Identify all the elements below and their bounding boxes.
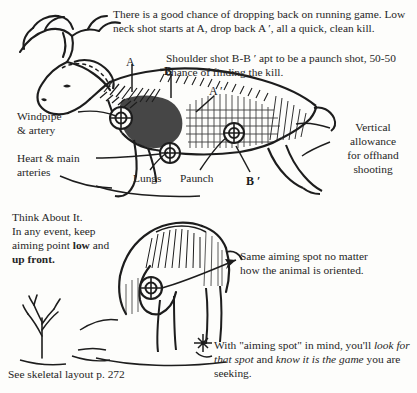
vertical-allowance-leader [296, 123, 330, 156]
paragraph-shoulder-shot: Shoulder shot B-B ′ apt to be a paunch s… [166, 52, 414, 80]
grazing-deer-legs [157, 286, 221, 352]
tail-icon [314, 107, 335, 131]
think-emphasis-up-front: up front. [12, 253, 55, 265]
label-heart-arteries: Heart & main arteries [17, 152, 80, 180]
shot-marker-b-prime: B ′ [246, 174, 260, 189]
label-vertical-allowance: Vertical allowance for offhand shooting [333, 121, 413, 177]
neck-topline [110, 70, 160, 82]
think-emphasis-low: low [73, 239, 90, 251]
with-text-c: and [254, 353, 276, 365]
paragraph-with-aiming-spot: With "aiming spot" in mind, you'll look … [214, 339, 414, 381]
illustration-page: There is a good chance of dropping back … [0, 0, 417, 393]
think-line-2: In any event, keep [12, 225, 96, 237]
label-paunch: Paunch [180, 172, 214, 186]
label-skeletal-reference: See skeletal layout p. 272 [8, 368, 125, 382]
think-line-3c: and [90, 239, 109, 251]
paragraph-think-about-it: Think About It.In any event, keepaiming … [12, 211, 147, 267]
brush-tuft-icon [194, 334, 212, 357]
ground-line-lower [96, 358, 226, 365]
ground-brush [20, 349, 110, 365]
with-italic-know-it-is-game: know it is the game [276, 353, 364, 365]
eye-icon [63, 85, 71, 88]
label-lungs: Lungs [133, 172, 161, 186]
antlers-icon [20, 16, 120, 62]
shot-marker-a: A [126, 55, 135, 70]
target-circle-neck [110, 107, 132, 129]
nose-icon [41, 98, 47, 101]
grazing-shoulder-hump [156, 226, 206, 232]
distant-terrain [80, 319, 118, 330]
shot-marker-b: B [164, 64, 172, 79]
leader-same-aiming-spot [162, 259, 236, 288]
target-circle-grazing-shoulder [140, 277, 162, 299]
grazing-neck-hatching [146, 229, 200, 268]
with-text-a: With "aiming spot" in mind, you'll [214, 339, 374, 351]
shot-marker-a-prime: A ′ [209, 84, 223, 99]
target-circle-paunch [224, 123, 244, 143]
target-circle-heart [160, 143, 180, 163]
buck-head-icon [38, 62, 111, 114]
shrub-icon [23, 295, 60, 358]
rear-legs [268, 145, 322, 194]
paragraph-running-game: There is a good chance of dropping back … [113, 8, 413, 36]
paragraph-same-aiming-spot: Same aiming spot no matter how the anima… [240, 250, 390, 278]
think-line-3a: aiming point [12, 239, 73, 251]
think-line-1: Think About It. [12, 211, 83, 223]
label-windpipe: Windpipe & artery [17, 110, 61, 138]
